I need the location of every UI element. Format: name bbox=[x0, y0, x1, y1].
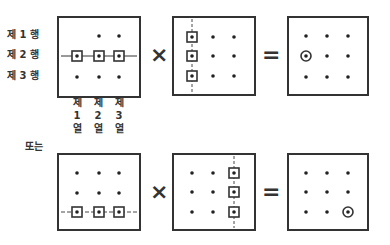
matrix-elements bbox=[0, 0, 390, 245]
bottom-result-dots bbox=[304, 171, 350, 214]
